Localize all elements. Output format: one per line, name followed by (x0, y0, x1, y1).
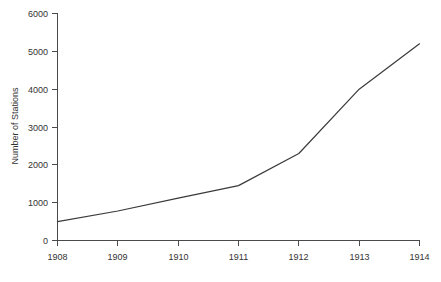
line-chart: 6000 5000 4000 3000 2000 1000 0 1908 190… (0, 0, 441, 282)
y-tick-label: 4000 (28, 85, 48, 95)
x-tick-label: 1913 (349, 252, 369, 262)
y-tick-label: 2000 (28, 160, 48, 170)
y-tick-label: 0 (43, 236, 48, 246)
x-tick-marks (58, 241, 420, 247)
y-tick-label: 3000 (28, 123, 48, 133)
y-tick-label: 6000 (28, 9, 48, 19)
x-tick-label: 1908 (47, 252, 67, 262)
x-tick-labels: 1908 1909 1910 1911 1912 1913 1914 (47, 252, 429, 262)
y-axis-title: Number of Stations (10, 87, 20, 165)
data-series-line (58, 44, 420, 222)
y-tick-labels: 6000 5000 4000 3000 2000 1000 0 (28, 9, 48, 246)
x-tick-label: 1909 (107, 252, 127, 262)
chart-canvas: 6000 5000 4000 3000 2000 1000 0 1908 190… (0, 0, 441, 282)
x-tick-label: 1912 (288, 252, 308, 262)
y-tick-label: 5000 (28, 47, 48, 57)
x-tick-label: 1910 (168, 252, 188, 262)
y-tick-label: 1000 (28, 198, 48, 208)
x-tick-label: 1914 (409, 252, 429, 262)
x-tick-label: 1911 (229, 252, 248, 262)
y-tick-marks (52, 14, 58, 241)
